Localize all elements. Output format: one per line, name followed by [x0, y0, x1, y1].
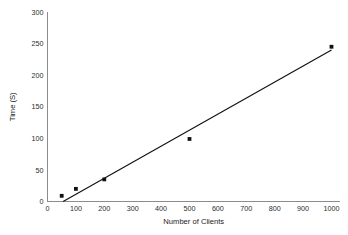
chart-figure: 050100150200250300 010020030040050060070…	[0, 0, 348, 235]
x-tick-label: 400	[155, 204, 167, 213]
y-axis-title: Time (S)	[8, 92, 17, 121]
x-tick-label: 600	[212, 204, 224, 213]
data-point	[102, 177, 106, 181]
data-point-markers	[60, 45, 334, 198]
x-tick-label: 1000	[323, 204, 339, 213]
y-tick-label: 0	[40, 197, 44, 206]
x-tick-label: 500	[183, 204, 195, 213]
x-axis-tick-labels: 01002003004005006007008009001000	[46, 204, 340, 213]
data-point	[330, 45, 334, 49]
y-tick-label: 100	[32, 134, 44, 143]
x-axis-title: Number of Clients	[163, 217, 224, 226]
data-point	[188, 137, 192, 141]
x-tick-label: 700	[240, 204, 252, 213]
y-tick-label: 50	[36, 166, 44, 175]
y-tick-label: 300	[32, 8, 44, 17]
y-tick-label: 150	[32, 102, 44, 111]
x-tick-label: 900	[297, 204, 309, 213]
x-tick-label: 0	[46, 204, 50, 213]
x-tick-label: 300	[127, 204, 139, 213]
x-tick-label: 100	[70, 204, 82, 213]
y-tick-label: 250	[32, 39, 44, 48]
scatter-plot: 050100150200250300 010020030040050060070…	[0, 0, 348, 235]
x-tick-label: 800	[269, 204, 281, 213]
y-axis-tick-labels: 050100150200250300	[32, 8, 44, 207]
data-point	[60, 194, 64, 198]
data-point	[74, 187, 78, 191]
x-tick-label: 200	[98, 204, 110, 213]
y-tick-label: 200	[32, 71, 44, 80]
